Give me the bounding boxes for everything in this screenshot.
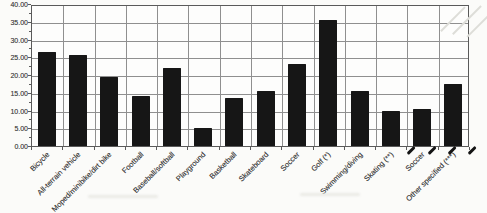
vertical-gridline xyxy=(188,6,189,146)
vertical-gridline xyxy=(376,6,377,146)
x-axis-tick xyxy=(125,147,126,150)
horizontal-gridline xyxy=(32,41,468,42)
y-axis-minor-tick xyxy=(29,13,31,14)
y-axis-tick-label: 25.00 xyxy=(0,54,28,62)
y-axis-tick-label: 30.00 xyxy=(0,37,28,45)
bar xyxy=(382,111,400,147)
vertical-gridline xyxy=(220,6,221,146)
y-axis-major-tick xyxy=(28,57,31,58)
y-axis-minor-tick xyxy=(29,48,31,49)
bar xyxy=(319,20,337,146)
y-axis-tick-label: 10.00 xyxy=(0,108,28,116)
scan-artifact-dash xyxy=(428,146,437,155)
y-axis-minor-tick xyxy=(29,137,31,138)
y-axis-minor-tick xyxy=(29,119,31,120)
bar xyxy=(257,91,275,146)
y-axis-major-tick xyxy=(28,40,31,41)
bar xyxy=(413,109,431,146)
x-axis-tick xyxy=(250,147,251,150)
vertical-gridline xyxy=(63,6,64,146)
vertical-gridline xyxy=(314,6,315,146)
bar xyxy=(69,55,87,146)
scan-artifact-smudge xyxy=(300,193,360,196)
bar xyxy=(351,91,369,146)
bar xyxy=(163,68,181,146)
vertical-gridline xyxy=(407,6,408,146)
y-axis-tick-label: 20.00 xyxy=(0,72,28,80)
scan-artifact-dash xyxy=(407,146,416,155)
horizontal-gridline xyxy=(32,76,468,77)
vertical-gridline xyxy=(157,6,158,146)
plot-area xyxy=(31,5,469,147)
y-axis-major-tick xyxy=(28,128,31,129)
bar xyxy=(225,98,243,146)
bar xyxy=(444,84,462,146)
y-axis-minor-tick xyxy=(29,102,31,103)
y-axis-major-tick xyxy=(28,111,31,112)
x-axis-tick xyxy=(344,147,345,150)
scanned-bar-chart-page: 40.0035.0030.0025.0020.0015.0010.005.000… xyxy=(0,0,487,213)
x-axis-tick xyxy=(313,147,314,150)
x-axis-tick xyxy=(62,147,63,150)
x-axis-tick xyxy=(375,147,376,150)
vertical-gridline xyxy=(95,6,96,146)
y-axis-tick-label: 35.00 xyxy=(0,19,28,27)
horizontal-gridline xyxy=(32,58,468,59)
vertical-gridline xyxy=(251,6,252,146)
y-axis-tick-label: 0.00 xyxy=(0,143,28,151)
x-axis-tick xyxy=(187,147,188,150)
x-axis-tick xyxy=(219,147,220,150)
x-axis-tick xyxy=(438,147,439,150)
bar xyxy=(100,77,118,146)
scan-artifact-smudge xyxy=(88,195,158,198)
bar xyxy=(38,52,56,146)
x-axis-tick xyxy=(156,147,157,150)
vertical-gridline xyxy=(282,6,283,146)
y-axis-minor-tick xyxy=(29,66,31,67)
horizontal-gridline xyxy=(32,112,468,113)
vertical-gridline xyxy=(126,6,127,146)
horizontal-gridline xyxy=(32,129,468,130)
bar xyxy=(132,96,150,146)
y-axis-tick-label: 5.00 xyxy=(0,125,28,133)
x-axis-tick xyxy=(31,147,32,150)
x-axis-tick xyxy=(406,147,407,150)
bar xyxy=(288,64,306,146)
bar xyxy=(194,128,212,146)
y-axis-tick-label: 15.00 xyxy=(0,90,28,98)
x-axis-tick xyxy=(94,147,95,150)
vertical-gridline xyxy=(345,6,346,146)
vertical-gridline xyxy=(439,6,440,146)
y-axis-minor-tick xyxy=(29,31,31,32)
y-axis-major-tick xyxy=(28,93,31,94)
horizontal-gridline xyxy=(32,94,468,95)
y-axis-minor-tick xyxy=(29,84,31,85)
y-axis-major-tick xyxy=(28,4,31,5)
y-axis-tick-label: 40.00 xyxy=(0,1,28,9)
x-axis-tick xyxy=(281,147,282,150)
y-axis-major-tick xyxy=(28,22,31,23)
horizontal-gridline xyxy=(32,23,468,24)
y-axis-major-tick xyxy=(28,75,31,76)
